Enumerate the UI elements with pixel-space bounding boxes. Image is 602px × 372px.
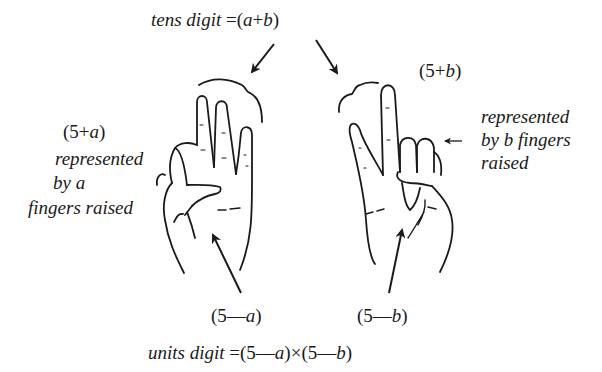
tens-digit-label: tens digit [151,9,221,30]
diagram-artwork [0,0,602,372]
label-part: (5 [211,305,227,326]
left-hand-description-line-2: by a [53,172,85,193]
label-part: a [90,121,100,142]
left-hand-description-line-1: represented [55,148,143,169]
arrow-to-right-palm [389,230,402,293]
label-part: ) [99,121,105,142]
term-part: (5 [301,342,317,363]
var-b: b [263,9,273,30]
term-part: (5 [240,342,256,363]
left-hand-description-line-3: fingers raised [28,197,133,218]
label-part: ) [455,60,461,81]
paren-close: ) [273,9,279,30]
label-part: b [446,60,456,81]
term-part: b [336,342,346,363]
arrow-to-right-hand [316,40,337,73]
units-digit-label: units digit [148,342,225,363]
label-part: a [246,305,256,326]
right-hand-bottom-label: (5—b) [357,305,408,326]
right-hand-description-line-2: by b fingers [481,129,571,150]
label-part: b [392,305,402,326]
tens-digit-formula: tens digit =(a+b) [151,9,279,30]
term-part: a [275,342,285,363]
label-part: ) [401,305,407,326]
units-digit-formula: units digit =(5—a)×(5—b) [148,342,352,363]
equals-sign: = [226,9,237,30]
label-part: — [227,305,246,326]
right-hand-icon [339,82,453,272]
arrow-to-left-hand [252,44,274,72]
equals-sign: = [229,342,240,363]
label-part: ) [255,305,261,326]
left-hand-value-label: (5+a) [63,121,105,142]
right-hand-description-line-1: represented [481,106,569,127]
right-hand-description-line-3: raised [481,152,529,173]
arrow-to-left-palm [213,235,241,293]
var-a: a [243,9,253,30]
term-part: — [317,342,336,363]
right-hand-value-label: (5+b) [419,60,461,81]
label-part: — [373,305,392,326]
label-part: (5 [357,305,373,326]
term-part: — [256,342,275,363]
times-sign: × [291,342,302,363]
label-part: (5 [63,121,79,142]
term-part: ) [346,342,352,363]
label-part: (5 [419,60,435,81]
left-hand-icon [157,79,262,273]
label-part: + [79,121,90,142]
plus-sign: + [253,9,264,30]
label-part: + [435,60,446,81]
left-hand-bottom-label: (5—a) [211,305,262,326]
